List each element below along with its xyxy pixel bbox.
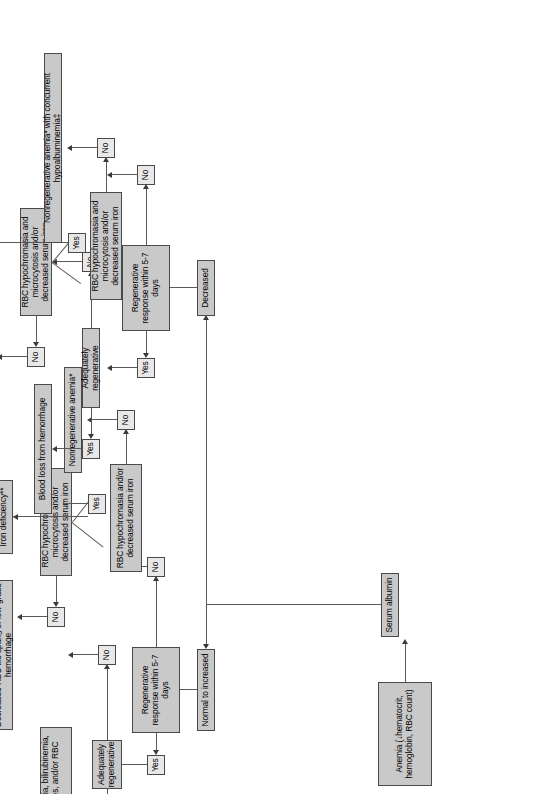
node-rbc-hypochromasia-4: RBC hypochromasia and microcytosis and/o… xyxy=(90,192,122,300)
node-no-r1: No xyxy=(137,165,155,185)
arrow-root-to-albumin xyxy=(402,639,408,644)
edge-regen-right-bus-left xyxy=(146,331,147,353)
arrow-yes-r2-up xyxy=(52,447,57,453)
node-serum-albumin: Serum albumin xyxy=(381,573,399,637)
node-normal-to-increased: Normal to increased xyxy=(197,649,215,731)
node-decreased: Decreased xyxy=(197,260,215,316)
edge-yes-r2-up xyxy=(57,448,82,449)
edge-no-l7-up xyxy=(92,419,117,420)
node-rbc-hypochromasia-2: RBC hypochromasia and/or decreased serum… xyxy=(110,464,142,572)
node-no-r5: No xyxy=(97,138,115,158)
edge-albumin-to-decreased xyxy=(206,320,207,605)
edge-no-l5-up xyxy=(22,616,47,617)
arrow-yes-r1-up xyxy=(107,366,112,372)
edge-yes-r1-up xyxy=(112,367,137,368)
node-no-r3: No xyxy=(27,347,45,367)
node-no-l2: No xyxy=(98,645,116,665)
edge-adq-left-bus-right xyxy=(107,669,108,740)
edge-yes-l1-up xyxy=(122,764,147,765)
node-yes-l1: Yes xyxy=(147,755,165,775)
node-yes-r2: Yes xyxy=(82,439,100,459)
edge-hypo3-diag-right xyxy=(51,262,81,284)
edge-albumin-to-normal xyxy=(206,605,207,644)
arrow-no-r1-up xyxy=(107,173,112,179)
node-regen-response-right: Regenerative response within 5-7 days xyxy=(122,245,170,331)
edge-hypo1-to-no5 xyxy=(56,576,57,602)
node-adequately-regenerative-left: Adequately regenerative xyxy=(92,740,122,789)
edge-no-l2-up xyxy=(73,654,98,655)
arrow-no-l5-up xyxy=(17,615,22,621)
edge-regen-right-bus-right xyxy=(146,189,147,245)
edge-normal-to-regen-left xyxy=(180,689,197,690)
edge-decreased-to-regen-right xyxy=(170,287,197,288)
edge-no-r3-up xyxy=(2,356,27,357)
node-decreased-rbc-life-span: Decreased RBC life span§ or low-grade he… xyxy=(0,580,13,730)
node-no-l5: No xyxy=(47,607,65,627)
edge-regen-left-yes xyxy=(156,733,157,750)
edge-hypo1-diag-right xyxy=(71,522,103,547)
node-yes-l6: Yes xyxy=(88,494,106,514)
node-yes-r1: Yes xyxy=(137,358,155,378)
edge-yes-l6-up xyxy=(63,503,88,504)
node-adequately-regenerative-right: Adequately regenerative xyxy=(82,328,100,408)
node-root: Anemia (↓hematocrit, hemoglobin, RBC cou… xyxy=(378,682,432,786)
node-no-l7: No xyxy=(117,410,135,430)
node-yes-r4: Yes xyxy=(68,233,86,253)
edge-hypo4-to-no-r5 xyxy=(106,162,107,192)
edge-albumin-bus xyxy=(206,604,381,605)
arrow-no-l2-up xyxy=(68,653,73,659)
edge-no-r2-up xyxy=(57,261,82,262)
arrow-irondef-up xyxy=(13,515,18,521)
edge-adq-left-bus-left xyxy=(107,789,108,794)
node-nonregenerative-anemia-hypoalbuminemia: Nonregenerative anemia* with concurrent … xyxy=(44,53,62,243)
node-no-l1: No xyxy=(147,557,165,577)
node-iron-deficiency: Iron deficiency** xyxy=(0,480,13,554)
node-blood-loss-from-hemorrhage: Blood loss from hemorrhage xyxy=(34,384,52,514)
flowchart-canvas: Anemia (↓hematocrit, hemoglobin, RBC cou… xyxy=(0,0,537,794)
edge-root-to-albumin xyxy=(405,644,406,682)
arrow-no-r5-up xyxy=(67,146,72,152)
edge-adq-right-bus-left xyxy=(91,408,92,434)
edge-no-r1-up xyxy=(112,174,137,175)
edge-regen-left-bus xyxy=(156,581,157,647)
edge-hypo3-to-no-r3 xyxy=(36,316,37,342)
arrow-no-r3-up xyxy=(0,355,2,361)
edge-hypo2-to-no7 xyxy=(126,434,127,464)
node-hemoglobinuria-panel: Hemoglobinuria, bilirubinuria, bilirubin… xyxy=(40,727,72,794)
node-regen-response-left: Regenerative response within 5-7 days xyxy=(132,647,180,733)
edge-no-r5-up xyxy=(72,147,97,148)
edge-irondef-down xyxy=(13,516,88,517)
